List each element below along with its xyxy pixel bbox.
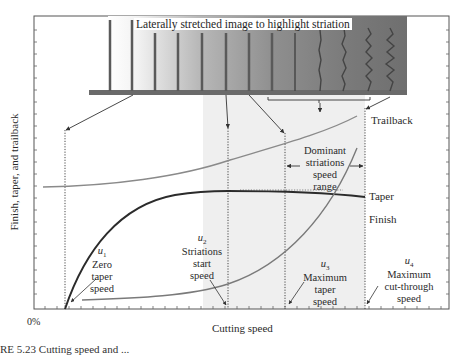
u3-maximum-taper-speed-label: u3 Maximum taper speed <box>298 258 352 308</box>
y-axis-label: Finish, taper, and trailback <box>8 113 20 230</box>
x-axis-label: Cutting speed <box>212 322 273 335</box>
x-origin-label: 0% <box>27 316 40 328</box>
figure-caption: RE 5.23 Cutting speed and ... <box>0 343 129 355</box>
u2-striations-start-speed-label: u2 Striations start speed <box>172 232 232 282</box>
trailback-label: Trailback <box>371 114 413 127</box>
taper-label: Taper <box>369 190 394 203</box>
u4-maximum-cut-through-speed-label: u4 Maximum cut-through speed <box>376 255 442 305</box>
finish-label: Finish <box>369 213 397 226</box>
u1-zero-taper-speed-label: u1 Zero taper speed <box>82 245 122 295</box>
striation-image-title: Laterally stretched image to highlight s… <box>134 18 352 30</box>
dominant-striations-range-label: Dominant striations speed range <box>295 145 355 193</box>
